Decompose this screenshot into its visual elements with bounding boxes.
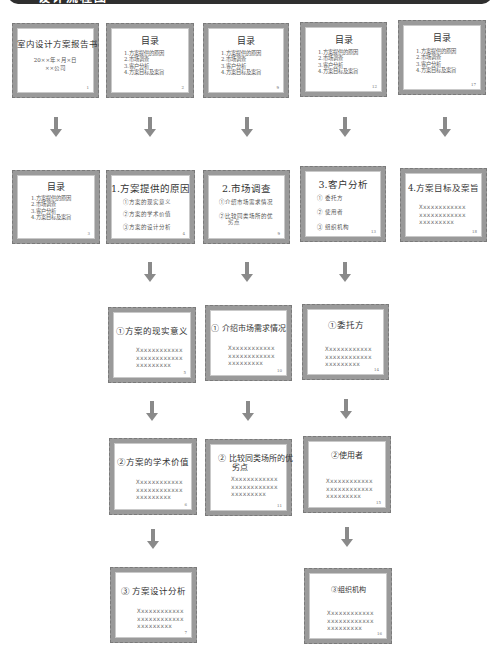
slide-title: ②使用者 (308, 449, 386, 460)
arrow-down-icon (146, 262, 154, 282)
page-number: 15 (376, 500, 381, 505)
x-line: Xxxxxxxxxxxx (325, 345, 372, 353)
arrow-down-icon (243, 262, 251, 282)
market-item-cont: 劣点 (219, 219, 273, 226)
x-line: xxxxxxxxxxxx (137, 615, 184, 623)
slide-title: 4.方案目标及案旨 (405, 181, 482, 193)
page-number: 14 (374, 367, 379, 372)
x-line: Xxxxxxxxxxxx (136, 346, 183, 354)
arrow-down-icon (441, 117, 449, 137)
page-number: 13 (371, 229, 376, 234)
slide-title: ①方案的现实意义 (113, 324, 191, 336)
slide-toc: 目录 1.方案提供的原因 2.市场调查 3.客户分析 4.方案目标及案旨 9 (203, 23, 289, 98)
header-bar: 设计流程图 (8, 0, 492, 4)
reason-item: ②方案的学术价值 (123, 211, 171, 217)
x-line: xxxxxxxxx (326, 492, 373, 500)
x-line: xxxxxxxxxxxx (325, 353, 372, 361)
arrow-down-icon (148, 401, 156, 421)
toc-item: 4.方案目标及案旨 (31, 214, 71, 220)
slide-client-2: ②使用者 Xxxxxxxxxxxx xxxxxxxxxxxx xxxxxxxxx… (303, 436, 391, 513)
page-number: 3 (87, 231, 90, 236)
page-number: 6 (184, 502, 187, 507)
toc-list: 1.方案提供的原因 2.市场调查 3.客户分析 4.方案目标及案旨 (31, 195, 71, 220)
slide-market-1: ① 介绍市场需求情况 Xxxxxxxxxxxx xxxxxxxxxxxx xxx… (205, 305, 292, 381)
x-line: xxxxxxxxxxxx (136, 486, 183, 494)
placeholder-text: Xxxxxxxxxxxx xxxxxxxxxxxx xxxxxxxxx (326, 477, 373, 500)
slide-title: 2.市场调查 (208, 181, 285, 195)
slide-goal: 4.方案目标及案旨 Xxxxxxxxxxxx xxxxxxxxxxxx xxxx… (400, 168, 487, 242)
x-line: Xxxxxxxxxxxx (136, 478, 183, 486)
x-line: Xxxxxxxxxxxx (326, 477, 373, 485)
placeholder-text: Xxxxxxxxxxxx xxxxxxxxxxxx xxxxxxxxx (325, 345, 372, 368)
x-line: xxxxxxxxx (137, 622, 184, 630)
client-list: ① 委托方 ② 使用者 ③ 组织机构 (317, 195, 349, 236)
arrow-down-icon (243, 117, 251, 137)
placeholder-text: Xxxxxxxxxxxx xxxxxxxxxxxx xxxxxxxxx (136, 478, 183, 501)
arrow-down-icon (149, 529, 157, 549)
slide-title: 目录 (403, 31, 481, 44)
page-number: 10 (277, 368, 282, 373)
market-list: ①介绍市场需求情况 ②比较同类场所的优 劣点 (219, 199, 273, 226)
toc-list: 1.方案提供的原因 2.市场调查 3.客户分析 4.方案目标及案旨 (124, 50, 164, 75)
x-line: Xxxxxxxxxxxx (327, 609, 374, 617)
slide-title-cont: 劣点 (232, 461, 287, 472)
x-line: Xxxxxxxxxxxx (419, 203, 466, 211)
toc-list: 1.方案提供的原因 2.市场调查 3.客户分析 4.方案目标及案旨 (221, 50, 261, 75)
toc-list: 1.方案提供的原因 2.市场调查 3.客户分析 4.方案目标及案旨 (318, 49, 358, 74)
slide-reason: 1.方案提供的原因 ①方案的现实意义 ②方案的学术价值 ③方案的设计分析 4 (106, 170, 195, 244)
header-title: 设计流程图 (38, 0, 108, 5)
x-line: xxxxxxxxxxxx (326, 485, 373, 493)
slide-client-1: ①委托方 Xxxxxxxxxxxx xxxxxxxxxxxx xxxxxxxxx… (302, 304, 389, 380)
page-number: 5 (183, 370, 186, 375)
slide-market: 2.市场调查 ①介绍市场需求情况 ②比较同类场所的优 劣点 9 (203, 170, 290, 244)
reason-item: ①方案的现实意义 (123, 199, 171, 205)
page-number: 12 (372, 84, 377, 89)
x-line: xxxxxxxxx (136, 493, 183, 501)
x-line: xxxxxxxxx (327, 624, 374, 632)
x-line: Xxxxxxxxxxxx (231, 475, 278, 483)
page-number: 9 (277, 231, 280, 236)
x-line: xxxxxxxxxxxx (231, 483, 278, 491)
page-number: 11 (277, 503, 282, 508)
slide-reason-2: ②方案的学术价值 Xxxxxxxxxxxx xxxxxxxxxxxx xxxxx… (109, 438, 197, 515)
arrow-down-icon (342, 399, 350, 419)
client-item: ③ 组织机构 (317, 224, 349, 230)
arrow-down-icon (146, 117, 154, 137)
slide-title: 目录 (17, 180, 95, 193)
slide-client-3: ③组织机构 Xxxxxxxxxxxx xxxxxxxxxxxx xxxxxxxx… (304, 568, 392, 644)
x-line: xxxxxxxxx (136, 361, 183, 369)
page-number: 16 (377, 631, 382, 636)
arrow-down-icon (52, 117, 60, 137)
slide-title: 目录 (305, 33, 382, 46)
x-line: xxxxxxxxxxxx (228, 352, 275, 360)
toc-list: 1.方案提供的原因 2.市场调查 3.客户分析 4.方案目标及案旨 (416, 48, 456, 73)
placeholder-text: Xxxxxxxxxxxx xxxxxxxxxxxx xxxxxxxxx (137, 607, 184, 630)
x-line: xxxxxxxxxxxx (136, 354, 183, 362)
x-line: xxxxxxxxx (231, 490, 278, 498)
slide-market-2: ② 比较同类场所的优 劣点 Xxxxxxxxxxxx xxxxxxxxxxxx … (205, 439, 292, 516)
slide-title: 1.方案提供的原因 (111, 181, 190, 195)
x-line: xxxxxxxxx (325, 360, 372, 368)
slide-reason-1: ①方案的现实意义 Xxxxxxxxxxxx xxxxxxxxxxxx xxxxx… (108, 307, 196, 383)
page-number: 18 (472, 229, 477, 234)
toc-item: 4.方案目标及案旨 (124, 69, 164, 75)
page-number: 9 (276, 85, 279, 90)
slide-title: 目录 (208, 34, 284, 47)
slide-toc: 目录 1.方案提供的原因 2.市场调查 3.客户分析 4.方案目标及案旨 17 (398, 20, 486, 95)
x-line: Xxxxxxxxxxxx (137, 607, 184, 615)
slide-toc: 目录 1.方案提供的原因 2.市场调查 3.客户分析 4.方案目标及案旨 2 (106, 23, 194, 98)
placeholder-text: Xxxxxxxxxxxx xxxxxxxxxxxx xxxxxxxxx (228, 344, 275, 367)
slide-title: 室内设计方案报告书 (17, 37, 94, 49)
page-number: 7 (184, 630, 187, 635)
slide-title: 3.客户分析 (305, 177, 381, 191)
toc-item: 4.方案目标及案旨 (318, 68, 358, 74)
arrow-down-icon (244, 401, 252, 421)
slide-toc: 目录 1.方案提供的原因 2.市场调查 3.客户分析 4.方案目标及案旨 3 (12, 170, 100, 244)
x-line: Xxxxxxxxxxxx (228, 344, 275, 352)
page-number: 1 (86, 85, 89, 90)
x-line: xxxxxxxxx (228, 359, 275, 367)
page-number: 4 (182, 231, 185, 236)
slide-title: ① 介绍市场需求情况 (210, 322, 287, 333)
toc-item: 4.方案目标及案旨 (221, 69, 261, 75)
page-number: 2 (181, 85, 184, 90)
